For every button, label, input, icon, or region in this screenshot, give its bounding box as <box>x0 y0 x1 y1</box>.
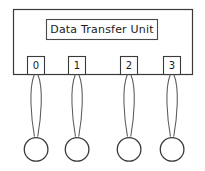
port-group-3: 3 <box>160 57 184 162</box>
cable-strand-left-3 <box>167 75 171 136</box>
cable-strand-left-1 <box>72 75 76 136</box>
cable-strand-right-1 <box>79 75 83 136</box>
port-label-2: 2 <box>126 60 132 71</box>
terminal-connector-1[interactable] <box>65 138 89 162</box>
data-transfer-unit-diagram: Data Transfer Unit 0 1 2 <box>0 0 205 171</box>
terminal-connector-3[interactable] <box>160 138 184 162</box>
cable-strand-left-0 <box>31 75 35 136</box>
cable-strand-right-3 <box>174 75 178 136</box>
cable-strand-right-2 <box>131 75 135 136</box>
cable-strand-right-0 <box>38 75 42 136</box>
port-label-3: 3 <box>169 60 175 71</box>
port-label-1: 1 <box>74 60 80 71</box>
terminal-connector-0[interactable] <box>24 138 48 162</box>
port-group-2: 2 <box>117 57 141 162</box>
terminal-connector-2[interactable] <box>117 138 141 162</box>
port-label-0: 0 <box>33 60 39 71</box>
unit-title-label: Data Transfer Unit <box>50 23 154 36</box>
port-group-0: 0 <box>24 57 48 162</box>
diagram-canvas: Data Transfer Unit 0 1 2 <box>0 0 205 171</box>
cable-strand-left-2 <box>124 75 128 136</box>
port-group-1: 1 <box>65 57 89 162</box>
